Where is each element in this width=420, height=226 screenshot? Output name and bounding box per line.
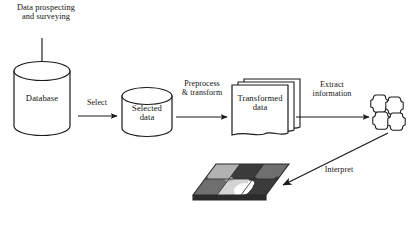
label-select: Select (73, 99, 121, 108)
label-extract-information: Extract information (300, 81, 364, 98)
node-knowledge-board[interactable] (193, 164, 289, 200)
label-preprocess-transform: Preprocess & transform (176, 80, 228, 97)
edge-interpret-arrow (283, 133, 388, 185)
label-selected-data: Selected data (122, 104, 172, 123)
node-pattern-puzzle-cluster[interactable] (371, 95, 405, 130)
diagram-vector-layer (0, 0, 420, 226)
label-interpret: Interpret (311, 166, 367, 175)
label-transformed-data: Transformed data (229, 94, 291, 113)
label-database: Database (14, 94, 70, 103)
diagram-canvas: Data prospecting and surveying Database … (0, 0, 420, 226)
label-data-prospecting: Data prospecting and surveying (0, 4, 92, 22)
